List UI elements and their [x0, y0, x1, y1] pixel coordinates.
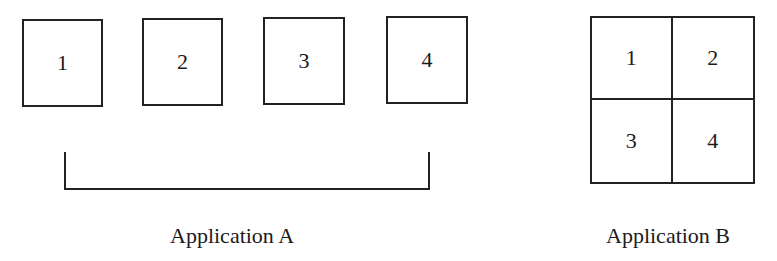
app-a-grouping-bracket: [64, 152, 430, 190]
app-b-cell-4: 4: [673, 100, 754, 182]
app-a-box-4-label: 4: [422, 47, 433, 73]
app-b-cell-2: 2: [673, 18, 754, 100]
app-a-box-2: 2: [142, 18, 223, 106]
app-a-box-1: 1: [22, 19, 103, 107]
app-a-box-4: 4: [386, 16, 468, 104]
app-b-cell-1: 1: [592, 18, 673, 100]
app-b-caption: Application B: [606, 223, 730, 249]
app-b-cell-3-label: 3: [626, 128, 637, 154]
app-a-box-3: 3: [263, 17, 345, 105]
app-b-cell-3: 3: [592, 100, 673, 182]
app-a-box-2-label: 2: [177, 49, 188, 75]
app-a-caption: Application A: [170, 223, 294, 249]
app-a-box-1-label: 1: [57, 50, 68, 76]
app-b-cell-2-label: 2: [707, 45, 718, 71]
app-b-cell-4-label: 4: [707, 128, 718, 154]
app-b-cell-1-label: 1: [626, 45, 637, 71]
app-a-box-3-label: 3: [299, 48, 310, 74]
app-b-grid: 1 2 3 4: [590, 16, 755, 184]
